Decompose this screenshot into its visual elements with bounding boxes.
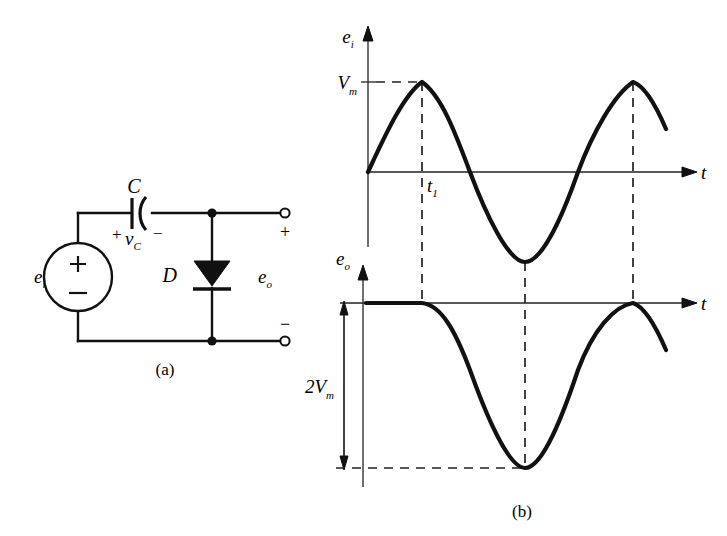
input-peak-label: Vm	[337, 72, 357, 97]
capacitor-plus-sign: +	[112, 225, 122, 244]
output-x-axis-arrowhead	[682, 298, 697, 308]
ac-voltage-source-icon	[44, 243, 112, 311]
capacitor-label: C	[127, 175, 141, 197]
output-span-dimension	[340, 301, 348, 470]
input-time-marker-label: t1	[427, 175, 438, 199]
output-terminal-negative	[280, 336, 289, 345]
output-plus-sign: +	[280, 222, 290, 242]
waveform-panel: ei Vm t1 t 2Vm eo t	[305, 26, 707, 521]
input-waveform-chart: ei Vm t1 t	[337, 26, 707, 468]
capacitor-minus-sign: −	[153, 224, 163, 243]
figure-root: ei C + vC − D + − eo (a)	[0, 0, 727, 536]
output-span-label: 2Vm	[305, 376, 334, 401]
node-dot-bottom	[207, 336, 216, 345]
output-waveform-chart: 2Vm eo t	[305, 248, 707, 487]
output-terminal-positive	[280, 208, 289, 217]
output-clamped-curve	[366, 303, 666, 468]
output-x-axis-label: t	[701, 293, 707, 314]
diode-triangle	[194, 261, 230, 286]
diode-label: D	[162, 264, 178, 286]
capacitor-icon	[132, 197, 146, 230]
input-y-axis-label: ei	[342, 26, 354, 50]
output-minus-sign: −	[280, 314, 290, 334]
input-x-axis-label: t	[701, 162, 707, 183]
panel-a-caption: (a)	[156, 360, 175, 379]
output-y-axis-label: eo	[336, 248, 350, 272]
input-y-axis-arrowhead	[363, 26, 373, 41]
capacitor-voltage-label: vC	[125, 228, 141, 252]
circuit-panel: ei C + vC − D + − eo (a)	[34, 175, 290, 379]
node-dot-top	[207, 208, 216, 217]
diode-icon	[193, 261, 231, 289]
capacitor-plate-curved	[140, 197, 146, 230]
panel-b-caption: (b)	[512, 502, 532, 521]
input-x-axis-arrowhead	[682, 167, 697, 177]
output-y-axis-arrowhead	[358, 265, 368, 280]
output-label: eo	[258, 266, 272, 290]
